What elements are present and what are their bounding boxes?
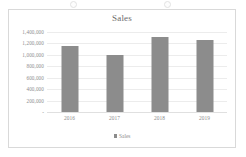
legend-square-marker [114,134,118,138]
value-axis-tick-label: 1,000,000 [22,52,44,58]
chart-container[interactable]: Sales -200,000400,000600,000800,0001,000… [8,9,236,148]
bar[interactable] [106,55,123,112]
category-axis-tick-label: 2016 [64,115,75,121]
bar-slot [182,32,227,112]
value-axis-tick-label: 1,400,000 [22,29,44,35]
chart-title: Sales [9,13,235,23]
value-axis-tick-label: - [42,109,44,115]
bar-slot [137,32,182,112]
category-axis-tick-label: 2017 [109,115,120,121]
bar-slot [47,32,92,112]
value-axis-tick-label: 400,000 [26,86,44,92]
legend-label: Sales [119,133,130,139]
value-axis-tick-label: 800,000 [26,63,44,69]
gridline [47,112,227,113]
value-axis-tick-label: 600,000 [26,75,44,81]
selection-handle-right[interactable] [164,1,171,8]
bar-series[interactable] [47,32,227,112]
category-axis-labels: 2016201720182019 [47,115,227,125]
chart-legend[interactable]: Sales [9,133,235,139]
bar[interactable] [196,40,213,112]
value-axis-labels: -200,000400,000600,000800,0001,000,0001,… [10,32,46,112]
value-axis-tick-label: 200,000 [26,98,44,104]
value-axis-tick-label: 1,200,000 [22,40,44,46]
bar[interactable] [61,46,78,112]
category-axis-tick-label: 2018 [154,115,165,121]
bar-slot [92,32,137,112]
bar[interactable] [151,37,168,112]
category-axis-tick-label: 2019 [199,115,210,121]
selection-handle-left[interactable] [70,1,77,8]
plot-area [47,32,227,112]
